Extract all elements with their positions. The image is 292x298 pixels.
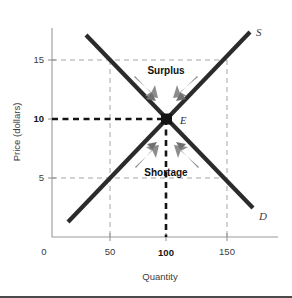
y-tick-label-5: 5 [39, 172, 44, 183]
equilibrium-label: E [179, 115, 187, 126]
supply-demand-figure: 15 10 5 0 50 100 150 Quantity Price (dol… [0, 0, 292, 298]
supply-demand-chart: 15 10 5 0 50 100 150 Quantity Price (dol… [0, 0, 292, 298]
demand-curve-label: D [258, 210, 267, 222]
x-tick-label-0: 0 [41, 246, 46, 257]
x-axis-title: Quantity [142, 271, 178, 282]
surplus-label: Surplus [147, 65, 185, 76]
x-tick-label-100: 100 [158, 247, 174, 258]
equilibrium-point-marker [161, 114, 172, 125]
x-tick-label-50: 50 [105, 246, 116, 257]
y-tick-label-15: 15 [33, 54, 44, 65]
shortage-label: Shortage [144, 167, 188, 178]
x-tick-label-150: 150 [219, 246, 235, 257]
y-axis-title: Price (dollars) [11, 103, 22, 162]
supply-curve-label: S [256, 26, 262, 38]
y-tick-label-10: 10 [33, 113, 44, 124]
